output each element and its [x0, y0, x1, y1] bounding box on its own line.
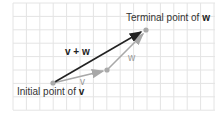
initial-label: Initial point of v — [17, 86, 84, 97]
vector-w — [107, 34, 143, 70]
terminal-label: Terminal point of w — [126, 12, 210, 23]
v-label: v — [80, 76, 85, 87]
middle-point — [104, 67, 109, 72]
vector-v — [53, 71, 103, 83]
initial-point — [50, 80, 55, 85]
vector-diagram: Terminal point of w Initial point of v v… — [0, 0, 221, 115]
sum-label: v + w — [65, 46, 90, 57]
w-label: w — [128, 52, 135, 63]
terminal-point — [143, 27, 148, 32]
